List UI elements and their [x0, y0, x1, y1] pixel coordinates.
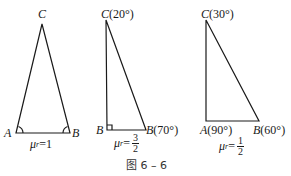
vertex-a-label-3: A(90°) [200, 124, 232, 136]
figure-caption: 图 6 – 6 [126, 156, 167, 172]
vertex-b-label: B [72, 127, 79, 139]
mu-value-2: μr= 32 [114, 133, 139, 154]
vertex-c-label-3: C(30°) [201, 8, 234, 20]
mu-value-1: μr=1 [30, 137, 52, 152]
triangle-isosceles [16, 24, 70, 133]
angle-arc-b [63, 127, 68, 134]
vertex-c-label-2: C(20°) [101, 8, 134, 20]
vertex-c-label: C [38, 8, 46, 20]
vertex-b-label-2: B(70°) [146, 124, 178, 136]
angle-arc-a [19, 127, 24, 134]
vertex-b-label-3: B(60°) [253, 124, 285, 136]
vertex-right-angle-label-2: B [96, 124, 103, 136]
right-angle-mark [107, 125, 112, 130]
mu-value-3: μr= 12 [219, 136, 244, 157]
triangle-right-20-70 [106, 20, 146, 130]
triangle-right-30-60 [206, 20, 259, 121]
vertex-a-label: A [4, 127, 11, 139]
